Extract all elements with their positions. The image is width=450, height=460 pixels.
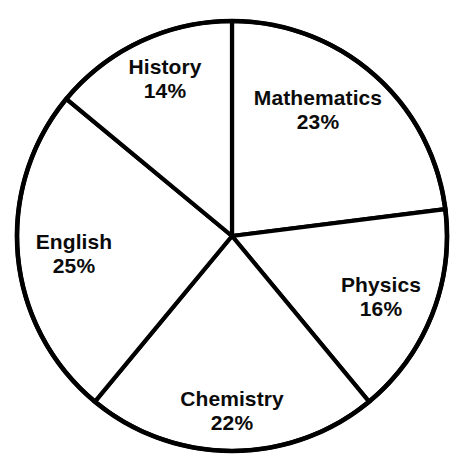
pie-label-history: History14% (128, 55, 201, 104)
pie-label-physics: Physics16% (341, 273, 421, 322)
pie-label-name: Mathematics (254, 86, 382, 110)
pie-label-value: 22% (180, 411, 284, 435)
pie-label-name: History (128, 55, 201, 79)
pie-label-value: 14% (128, 79, 201, 103)
pie-label-name: Chemistry (180, 387, 284, 411)
pie-label-value: 23% (254, 110, 382, 134)
pie-label-chemistry: Chemistry22% (180, 387, 284, 436)
pie-label-name: English (36, 230, 113, 254)
pie-chart: Mathematics23%Physics16%Chemistry22%Engl… (0, 0, 450, 460)
pie-label-english: English25% (36, 230, 113, 279)
pie-label-mathematics: Mathematics23% (254, 86, 382, 135)
pie-label-name: Physics (341, 273, 421, 297)
pie-label-value: 25% (36, 254, 113, 278)
pie-label-value: 16% (341, 297, 421, 321)
